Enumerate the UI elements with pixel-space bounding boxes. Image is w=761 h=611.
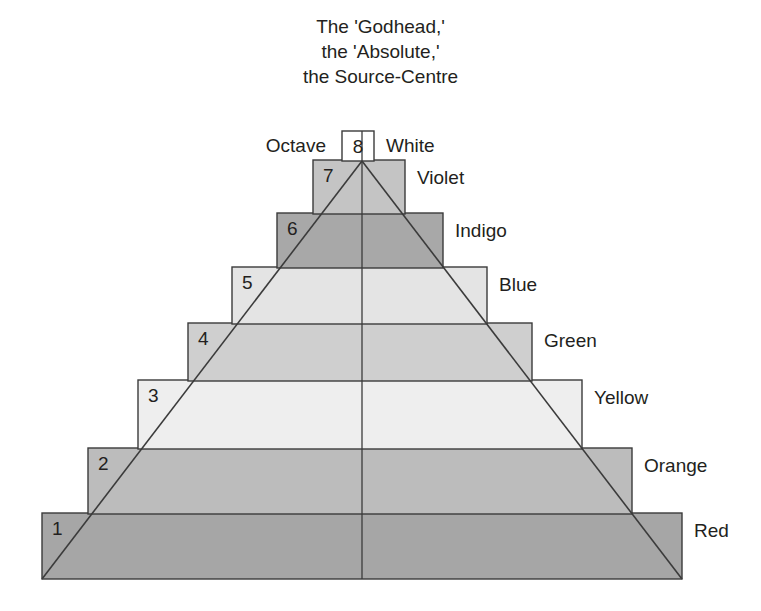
colour-label-yellow: Yellow	[594, 387, 649, 408]
pyramid-step-2	[88, 448, 632, 514]
step-number-2: 2	[98, 453, 109, 474]
colour-label-blue: Blue	[499, 274, 537, 295]
pyramid-diagram: The 'Godhead,' the 'Absolute,' the Sourc…	[0, 0, 761, 611]
pyramid-step-3	[138, 380, 582, 449]
pyramid-step-4	[188, 323, 532, 381]
octave-label: Octave	[266, 135, 326, 156]
step-number-7: 7	[323, 165, 334, 186]
step-number-6: 6	[287, 218, 298, 239]
colour-label-orange: Orange	[644, 455, 707, 476]
step-number-8: 8	[353, 136, 364, 157]
pyramid-svg: 87654321 WhiteVioletIndigoBlueGreenYello…	[0, 0, 761, 611]
step-number-4: 4	[198, 328, 209, 349]
step-number-1: 1	[52, 518, 63, 539]
step-number-5: 5	[242, 272, 253, 293]
colour-label-green: Green	[544, 330, 597, 351]
colour-label-indigo: Indigo	[455, 220, 507, 241]
colour-label-violet: Violet	[417, 167, 465, 188]
step-number-3: 3	[148, 385, 159, 406]
colour-label-white: White	[386, 135, 435, 156]
colour-label-red: Red	[694, 520, 729, 541]
